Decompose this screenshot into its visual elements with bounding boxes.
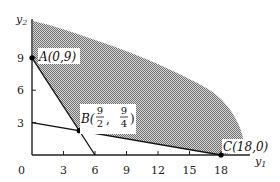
label-b-y-numerator: 9 xyxy=(121,105,127,116)
y-tick-label: 9 xyxy=(17,52,24,65)
x-tick-label: 12 xyxy=(151,164,165,177)
label-c-text: C(18,0) xyxy=(223,140,269,154)
label-b-y-denominator: 4 xyxy=(121,118,127,129)
label-a-text: A(0,9) xyxy=(38,50,76,64)
label-b-separator: , xyxy=(106,112,110,126)
feasible-region-diagram: 369121518369 A(0,9) B( 9 2 , 9 4 ) C(18,… xyxy=(0,0,280,182)
x-tick-label: 6 xyxy=(92,164,99,177)
x-tick-label: 15 xyxy=(183,164,197,177)
x-axis-label-sub: 1 xyxy=(261,160,266,169)
feasible-region xyxy=(32,21,245,155)
y-axis-label: y2 xyxy=(15,13,27,27)
label-b-suffix: ) xyxy=(130,112,135,126)
x-axis-label: y1 xyxy=(254,155,266,169)
label-b-x-denominator: 2 xyxy=(97,118,103,129)
label-b-x-numerator: 9 xyxy=(97,105,103,116)
label-b-prefix: B( xyxy=(80,112,95,126)
vertex-a xyxy=(29,55,34,60)
label-a: A(0,9) xyxy=(38,50,76,64)
y-tick-label: 3 xyxy=(17,117,24,130)
x-tick-label: 3 xyxy=(60,164,67,177)
x-tick-label: 18 xyxy=(214,164,228,177)
y-axis-label-sub: 2 xyxy=(21,18,27,27)
label-c: C(18,0) xyxy=(223,140,269,154)
origin-label: 0 xyxy=(18,164,25,177)
x-tick-label: 9 xyxy=(123,164,130,177)
y-tick-label: 6 xyxy=(17,84,24,97)
